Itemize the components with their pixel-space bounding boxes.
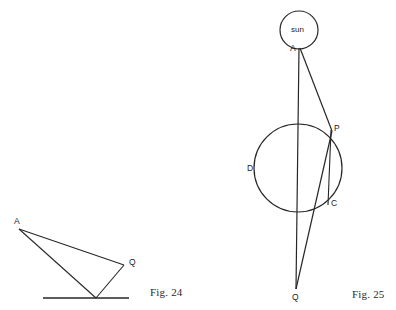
fig25-segment-a-q <box>296 48 299 289</box>
fig25-segment-a-p <box>300 48 332 131</box>
fig-25-group <box>254 11 342 289</box>
fig24-segment-a-q <box>19 229 124 265</box>
fig24-point-label-a: A <box>14 217 20 226</box>
figure-page: A Q sun A P C D Q Fig. 24 Fig. 25 <box>0 0 396 310</box>
fig25-point-label-a: A <box>290 44 296 53</box>
fig25-point-label-c: C <box>331 199 337 208</box>
fig-24-group <box>19 229 129 298</box>
diagram-canvas <box>0 0 396 310</box>
fig25-point-label-q: Q <box>292 293 299 302</box>
fig25-point-label-p: P <box>334 124 340 133</box>
sun-label: sun <box>291 26 304 34</box>
fig25-segment-p-q <box>296 131 332 289</box>
fig24-caption: Fig. 24 <box>150 286 183 298</box>
fig25-caption: Fig. 25 <box>352 288 385 300</box>
fig24-segment-a-b <box>19 229 96 298</box>
fig24-segment-q-b <box>96 265 124 298</box>
fig25-point-label-d: D <box>247 164 253 173</box>
fig24-point-label-q: Q <box>129 258 136 267</box>
